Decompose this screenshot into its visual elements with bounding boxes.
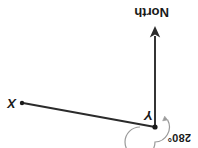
endpoint-point-x: [20, 101, 24, 105]
angle-label: 280°: [167, 132, 191, 143]
north-label: North: [134, 6, 169, 19]
diagram-vector-layer: [0, 0, 198, 148]
angle-arc: [125, 120, 169, 148]
line-y-to-x: [23, 103, 155, 127]
bearing-diagram: 280° Y X North: [0, 0, 198, 148]
north-arrowhead: [150, 26, 160, 38]
vertex-point-y: [152, 124, 157, 129]
point-label-x: X: [7, 97, 16, 110]
vertex-label-y: Y: [144, 109, 153, 122]
angle-arc-arrowhead: [163, 116, 168, 121]
diagram-canvas-rotated: 280° Y X North: [0, 0, 198, 148]
